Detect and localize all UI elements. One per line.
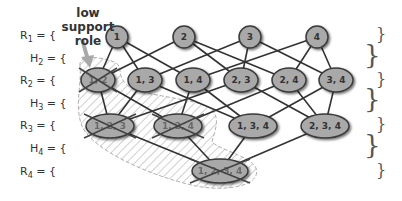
lattice-node-3: 3 [239,26,261,48]
annotation-line-1: low support [48,6,128,34]
node-label: 1, 3, 4 [237,121,269,131]
close-brace-h3: } [364,86,381,112]
node-label: 1, 3 [135,75,154,85]
row-label-h2: H2 = { [30,52,67,67]
row-label-h4: H4 = { [30,142,67,157]
lattice-node-134: 1, 3, 4 [229,114,277,138]
row-label-r2: R2 = { [20,74,56,89]
close-brace-h4: } [364,132,381,158]
node-label: 4 [314,32,320,42]
lattice-node-123: 1, 2, 3 [84,114,136,138]
node-label: 2, 3, 4 [309,121,341,131]
node-label: 2 [181,32,187,42]
lattice-node-23: 2, 3 [224,68,258,92]
lattice-node-24: 2, 4 [272,68,306,92]
row-label-r1: R1 = { [20,29,56,44]
annotation-line-2: role [48,34,128,48]
node-label: 3 [247,32,253,42]
node-label: 2, 4 [279,75,298,85]
itemset-lattice-diagram: 12341, 21, 31, 42, 32, 43, 41, 2, 31, 2,… [0,0,402,201]
lattice-node-12: 1, 2 [79,68,117,92]
lattice-node-2: 2 [173,26,195,48]
lattice-node-1234: 1, 2, 3, 4 [190,159,250,183]
close-brace-h2: } [364,42,381,68]
low-support-annotation: low support role [48,6,128,48]
lattice-node-124: 1, 2, 4 [152,114,204,138]
row-label-h3: H3 = { [30,97,67,112]
node-label: 1, 4 [183,75,202,85]
lattice-node-234: 2, 3, 4 [301,114,349,138]
row-label-r4: R4 = { [20,165,56,180]
node-label: 2, 3 [231,75,250,85]
lattice-node-13: 1, 3 [128,68,162,92]
lattice-node-14: 1, 4 [176,68,210,92]
lattice-node-34: 3, 4 [319,68,353,92]
close-brace-r4: } [376,163,386,179]
lattice-node-4: 4 [306,26,328,48]
node-label: 3, 4 [326,75,345,85]
row-label-r3: R3 = { [20,119,56,134]
